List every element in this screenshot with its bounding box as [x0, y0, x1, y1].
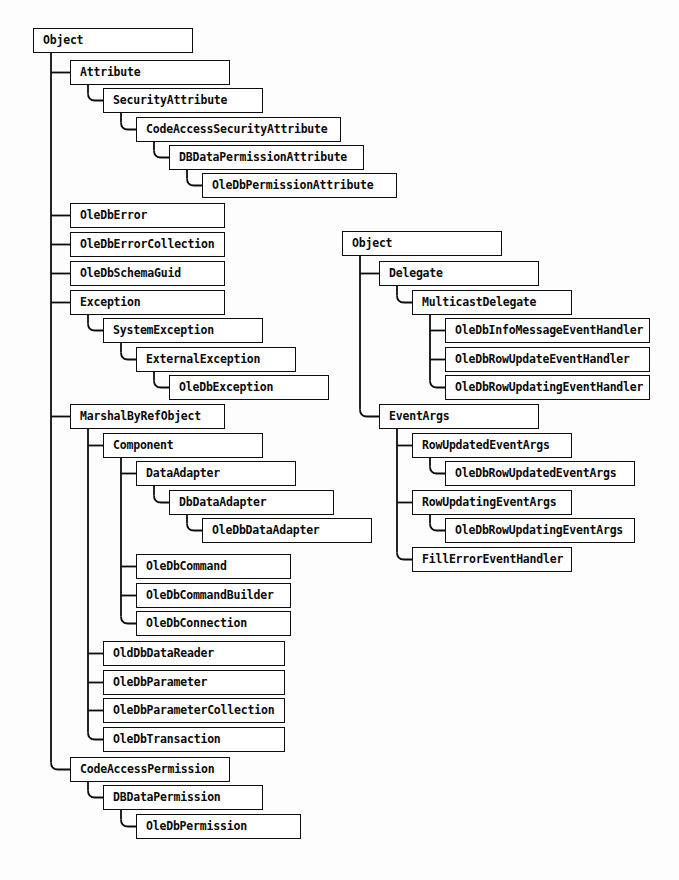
class-node-dataadapter: DataAdapter	[136, 461, 296, 486]
class-node-dbdatapermission: DBDataPermission	[103, 785, 263, 810]
class-node-label: OleDbErrorCollection	[80, 237, 214, 251]
tree-branch-line	[187, 524, 202, 531]
class-node-oledbpermissionattribute: OleDbPermissionAttribute	[202, 173, 397, 198]
tree-branch-line	[88, 324, 103, 331]
class-node-oledberrorcollection: OleDbErrorCollection	[70, 232, 225, 257]
tree-branch-line	[121, 123, 136, 130]
tree-branch-line	[360, 410, 379, 417]
class-node-oledbparameter: OleDbParameter	[103, 670, 285, 695]
tree-branch-line	[121, 820, 136, 827]
class-node-externalexception: ExternalException	[136, 347, 296, 372]
class-node-multicastdelegate: MulticastDelegate	[412, 290, 572, 315]
class-node-oledbrowupdatingeventargs: OleDbRowUpdatingEventArgs	[445, 518, 635, 543]
class-node-oledbrowupdatedeventargs: OleDbRowUpdatedEventArgs	[445, 461, 635, 486]
class-node-label: RowUpdatingEventArgs	[422, 495, 556, 509]
class-node-label: OleDbPermissionAttribute	[212, 178, 373, 192]
class-node-label: ExternalException	[146, 352, 260, 366]
tree-branch-line	[88, 733, 103, 740]
class-node-label: EventArgs	[389, 409, 450, 423]
class-node-label: OleDbCommandBuilder	[146, 588, 274, 602]
tree-branch-line	[154, 381, 169, 388]
class-node-marshalbyrefobject: MarshalByRefObject	[70, 404, 225, 429]
class-node-label: OleDbParameterCollection	[113, 703, 274, 717]
class-node-object: Object	[33, 28, 193, 53]
class-node-systemexception: SystemException	[103, 318, 263, 343]
class-node-label: DBDataPermissionAttribute	[179, 150, 347, 164]
class-node-oledbtransaction: OleDbTransaction	[103, 727, 285, 752]
tree-branch-line	[88, 791, 103, 798]
class-node-label: SecurityAttribute	[113, 93, 227, 107]
class-node-oledbschemaguid: OleDbSchemaGuid	[70, 261, 225, 286]
class-node-label: OleDbRowUpdatingEventArgs	[455, 523, 623, 537]
class-node-label: DbDataAdapter	[179, 495, 266, 509]
class-node-olddbdatareader: OldDbDataReader	[103, 641, 285, 666]
class-node-oledbpermission: OleDbPermission	[136, 814, 301, 839]
class-node-eventargs: EventArgs	[379, 404, 539, 429]
class-node-label: Component	[113, 438, 174, 452]
class-node-label: OleDbConnection	[146, 616, 247, 630]
class-node-oledbconnection: OleDbConnection	[136, 611, 291, 636]
class-node-label: MulticastDelegate	[422, 295, 536, 309]
class-node-oledbinfomessageeventhandler: OleDbInfoMessageEventHandler	[445, 318, 650, 343]
class-node-dbdatapermissionattribute: DBDataPermissionAttribute	[169, 145, 364, 170]
class-node-label: OleDbRowUpdateEventHandler	[455, 352, 630, 366]
class-node-label: OleDbSchemaGuid	[80, 266, 181, 280]
tree-branch-line	[154, 151, 169, 158]
class-node-label: DataAdapter	[146, 466, 220, 480]
tree-branch-line	[397, 553, 412, 560]
class-node-dbdataadapter: DbDataAdapter	[169, 490, 334, 515]
class-node-label: FillErrorEventHandler	[422, 552, 563, 566]
tree-branch-line	[187, 179, 202, 186]
class-node-label: RowUpdatedEventArgs	[422, 438, 550, 452]
tree-branch-line	[430, 467, 445, 474]
class-node-oledbrowupdateeventhandler: OleDbRowUpdateEventHandler	[445, 347, 650, 372]
class-node-codeaccesssecurityattribute: CodeAccessSecurityAttribute	[136, 117, 341, 142]
class-node-label: Delegate	[389, 266, 443, 280]
class-node-oledbparametercollection: OleDbParameterCollection	[103, 698, 285, 723]
class-node-oledbcommand: OleDbCommand	[136, 554, 291, 579]
class-node-object: Object	[342, 231, 502, 256]
class-hierarchy-diagram: ObjectAttributeSecurityAttributeCodeAcce…	[0, 0, 679, 880]
tree-branch-line	[397, 296, 412, 303]
class-node-label: MarshalByRefObject	[80, 409, 201, 423]
class-node-oledbcommandbuilder: OleDbCommandBuilder	[136, 583, 291, 608]
class-node-exception: Exception	[70, 290, 225, 315]
class-node-securityattribute: SecurityAttribute	[103, 88, 263, 113]
tree-branch-line	[88, 94, 103, 101]
class-node-label: SystemException	[113, 323, 214, 337]
class-node-delegate: Delegate	[379, 261, 539, 286]
class-node-oledberror: OleDbError	[70, 203, 225, 228]
class-node-label: Object	[43, 33, 83, 47]
class-node-component: Component	[103, 433, 263, 458]
tree-branch-line	[51, 763, 70, 770]
tree-branch-line	[121, 353, 136, 360]
class-node-oledbdataadapter: OleDbDataAdapter	[202, 518, 372, 543]
tree-branch-line	[154, 496, 169, 503]
class-node-fillerroreventhandler: FillErrorEventHandler	[412, 547, 572, 572]
class-node-label: OldDbDataReader	[113, 646, 214, 660]
class-node-codeaccesspermission: CodeAccessPermission	[70, 757, 230, 782]
class-node-label: Object	[352, 236, 392, 250]
class-node-label: OleDbInfoMessageEventHandler	[455, 323, 643, 337]
class-node-oledbrowupdatingeventhandler: OleDbRowUpdatingEventHandler	[445, 375, 650, 400]
class-node-rowupdatingeventargs: RowUpdatingEventArgs	[412, 490, 572, 515]
class-node-label: OleDbDataAdapter	[212, 523, 320, 537]
class-node-oledbexception: OleDbException	[169, 375, 329, 400]
class-node-label: OleDbRowUpdatingEventHandler	[455, 380, 643, 394]
class-node-rowupdatedeventargs: RowUpdatedEventArgs	[412, 433, 572, 458]
tree-branch-line	[430, 524, 445, 531]
class-node-label: OleDbPermission	[146, 819, 247, 833]
tree-branch-line	[121, 617, 136, 624]
tree-branch-line	[430, 381, 445, 388]
class-node-label: CodeAccessSecurityAttribute	[146, 122, 328, 136]
class-node-label: DBDataPermission	[113, 790, 221, 804]
class-node-attribute: Attribute	[70, 60, 230, 85]
class-node-label: OleDbCommand	[146, 559, 227, 573]
class-node-label: CodeAccessPermission	[80, 762, 214, 776]
class-node-label: OleDbRowUpdatedEventArgs	[455, 466, 616, 480]
class-node-label: OleDbError	[80, 208, 147, 222]
class-node-label: Exception	[80, 295, 141, 309]
class-node-label: OleDbException	[179, 380, 273, 394]
class-node-label: OleDbParameter	[113, 675, 207, 689]
class-node-label: Attribute	[80, 65, 141, 79]
